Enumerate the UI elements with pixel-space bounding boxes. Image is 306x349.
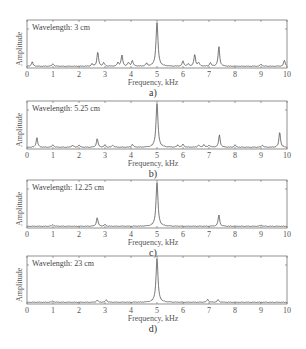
x-axis-label: Frequency, kHz (0, 314, 306, 323)
y-axis-label: Amplitude (15, 268, 24, 302)
panel-caption: d) (0, 323, 306, 334)
plot-area (0, 0, 306, 349)
legend-label: Wavelength: 23 cm (32, 259, 94, 268)
